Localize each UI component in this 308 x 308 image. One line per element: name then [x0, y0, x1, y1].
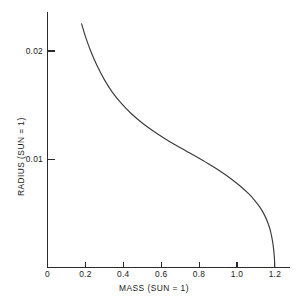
x-tick-label: 0: [45, 269, 50, 279]
x-tick-marks: [85, 262, 274, 268]
chart-plot: [0, 0, 308, 308]
figure-caption: [12, 300, 304, 308]
x-tick-label: 0.8: [193, 269, 205, 279]
y-tick-marks: [48, 51, 55, 159]
x-tick-label: 0.2: [79, 269, 91, 279]
x-tick-label: 0.4: [117, 269, 129, 279]
y-axis-title: RADIUS (SUN = 1): [16, 117, 26, 196]
x-tick-label: 1.2: [269, 269, 281, 279]
y-tick-label: 0.02: [20, 46, 43, 56]
x-tick-label: 0.6: [155, 269, 167, 279]
mass-radius-curve: [82, 24, 275, 268]
x-tick-label: 1.0: [231, 269, 243, 279]
axes-group: [47, 12, 290, 268]
x-axis-title: MASS (SUN = 1): [0, 283, 308, 293]
figure-container: 00.20.40.60.81.01.2 0.010.02 MASS (SUN =…: [0, 0, 308, 308]
